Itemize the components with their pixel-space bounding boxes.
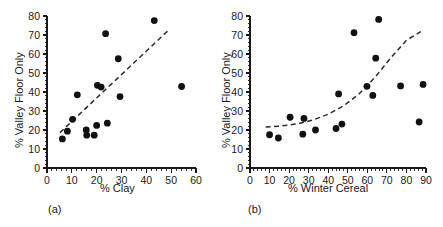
data-point [312,127,319,134]
data-point [301,115,308,122]
x-tick-label: 10 [66,174,78,186]
panel-b: 010203040506070800102030405060708090 % V… [215,0,443,227]
data-point [266,131,273,138]
data-point [369,92,376,99]
x-tick-label: 40 [140,174,152,186]
x-tick-label: 60 [190,174,202,186]
y-tick-label: 80 [28,10,40,22]
data-point [64,128,71,135]
y-tick-label: 60 [28,48,40,60]
data-point [372,55,379,62]
data-point [91,132,98,139]
y-tick-label: 50 [28,67,40,79]
y-tick-label: 30 [231,105,243,117]
data-point [104,120,111,127]
data-point [151,17,158,24]
data-point [364,83,371,90]
data-point [299,131,306,138]
y-tick-label: 10 [231,143,243,155]
fit-line [266,31,422,127]
y-tick-label: 40 [231,86,243,98]
data-point [397,83,404,90]
data-point [59,136,66,143]
y-tick-label: 70 [231,29,243,41]
data-point [375,16,382,23]
y-axis-label-a: % Valley Floor Only [13,52,25,148]
y-tick-label: 80 [231,10,243,22]
x-tick-label: 10 [264,174,276,186]
data-point [287,114,294,121]
scatter-plot-a: 010203040506070800102030405060 [0,0,215,190]
y-axis-label-b: % Valley Floor Only [220,52,232,148]
figure-container: 010203040506070800102030405060 % Valley … [0,0,443,227]
data-point [335,91,342,98]
x-tick-label: 80 [401,174,413,186]
data-point [102,30,109,37]
data-point [74,91,81,98]
x-axis-label-a: % Clay [100,182,135,194]
panel-caption-a: (a) [48,203,61,215]
data-point [93,122,100,129]
x-tick-label: 50 [165,174,177,186]
y-tick-label: 20 [231,124,243,136]
y-tick-label: 20 [28,124,40,136]
data-point [420,81,427,88]
data-point [339,121,346,128]
scatter-plot-b: 010203040506070800102030405060708090 [215,0,443,190]
data-point [69,116,76,123]
x-tick-label: 0 [44,174,50,186]
data-point [333,125,340,132]
y-tick-label: 30 [28,105,40,117]
data-point [83,132,90,139]
panel-a: 010203040506070800102030405060 % Valley … [0,0,215,227]
x-tick-label: 0 [247,174,253,186]
x-tick-label: 70 [381,174,393,186]
y-tick-label: 70 [28,29,40,41]
data-point [275,135,282,142]
data-point [178,83,185,90]
y-tick-label: 50 [231,67,243,79]
data-point [98,84,105,91]
y-tick-label: 60 [231,48,243,60]
data-point [115,55,122,62]
x-tick-label: 90 [420,174,432,186]
data-point [117,93,124,100]
y-tick-label: 10 [28,143,40,155]
panel-caption-b: (b) [248,203,261,215]
y-tick-label: 0 [237,162,243,174]
x-axis-label-b: % Winter Cereal [288,182,368,194]
y-tick-label: 0 [34,162,40,174]
data-point [416,119,423,126]
fit-line [60,31,168,132]
y-tick-label: 40 [28,86,40,98]
data-point [351,29,358,36]
